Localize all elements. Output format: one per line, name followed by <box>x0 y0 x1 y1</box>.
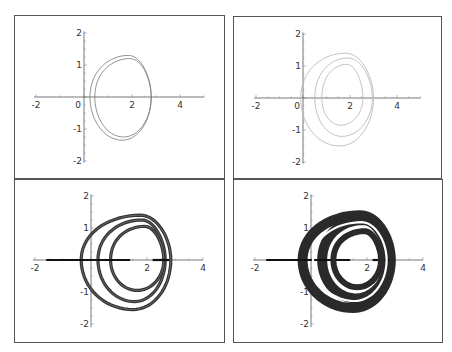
x-tick-label: 4 <box>177 100 183 110</box>
y-tick-label: -1 <box>292 125 301 135</box>
x-tick-label: 4 <box>420 263 426 273</box>
y-tick-label: -1 <box>73 124 82 134</box>
plot-panel-top-left: -2024-2-112 <box>14 15 225 179</box>
x-tick-label: -2 <box>32 100 41 110</box>
phase-plot-bottom-right: -224-2-112 <box>234 180 444 344</box>
x-tick-label: 2 <box>347 101 353 111</box>
orbit-curves <box>46 215 171 309</box>
y-tick-label: -2 <box>292 157 301 167</box>
orbit-curves <box>266 215 391 308</box>
y-tick-label: 2 <box>83 191 89 201</box>
x-tick-label: 0 <box>294 101 300 111</box>
phase-plot-top-left: -2024-2-112 <box>15 16 226 180</box>
axes: -2024-2-112 <box>252 29 421 167</box>
y-tick-label: 1 <box>303 223 309 233</box>
x-tick-label: 2 <box>129 100 135 110</box>
y-tick-label: 1 <box>76 60 82 70</box>
x-tick-label: -2 <box>251 263 260 273</box>
x-tick-label: 4 <box>394 101 400 111</box>
y-tick-label: 2 <box>295 29 301 39</box>
x-tick-label: 2 <box>144 263 150 273</box>
phase-plot-bottom-left: -224-2-112 <box>15 180 226 344</box>
x-tick-label: 4 <box>200 263 206 273</box>
y-tick-label: 2 <box>76 28 82 38</box>
y-tick-label: 1 <box>295 61 301 71</box>
phase-plot-top-right: -2024-2-112 <box>234 17 443 180</box>
plot-panel-bottom-left: -224-2-112 <box>14 179 225 343</box>
x-tick-label: -2 <box>31 263 40 273</box>
y-tick-label: -2 <box>73 156 82 166</box>
x-tick-label: -2 <box>252 101 261 111</box>
orbit-curves <box>90 55 151 140</box>
y-tick-label: -2 <box>300 319 309 329</box>
x-tick-label: 2 <box>364 263 370 273</box>
orbit-curves <box>301 53 374 146</box>
x-tick-label: 0 <box>75 100 81 110</box>
y-tick-label: -2 <box>80 319 89 329</box>
axes: -2024-2-112 <box>32 28 204 166</box>
y-tick-label: 1 <box>83 223 89 233</box>
y-tick-label: -1 <box>80 287 89 297</box>
plot-panel-bottom-right: -224-2-112 <box>233 179 443 343</box>
y-tick-label: 2 <box>303 191 309 201</box>
plot-panel-top-right: -2024-2-112 <box>233 16 442 179</box>
